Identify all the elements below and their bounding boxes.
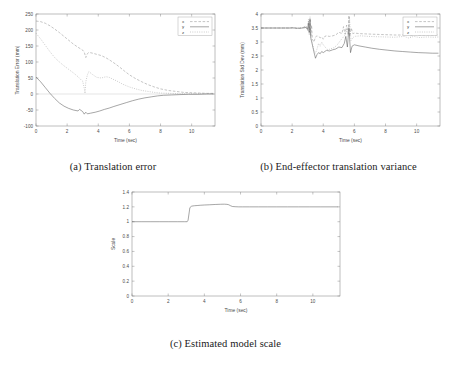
svg-text:0: 0 — [131, 299, 134, 304]
svg-text:1.2: 1.2 — [123, 205, 130, 210]
svg-text:2: 2 — [291, 129, 294, 134]
svg-text:1: 1 — [126, 219, 129, 224]
svg-text:1.5: 1.5 — [252, 82, 259, 87]
svg-text:0: 0 — [30, 92, 33, 97]
svg-text:4: 4 — [97, 129, 100, 134]
svg-text:Scale: Scale — [111, 238, 116, 251]
top-panel-row: 0246810-100-50050100150200250Time (sec)T… — [0, 0, 451, 178]
panel-translation-variance: 024681000.511.522.533.54Time (sec)Transl… — [226, 0, 451, 178]
panel-translation-error: 0246810-100-50050100150200250Time (sec)T… — [0, 0, 226, 178]
svg-text:2: 2 — [255, 68, 258, 73]
svg-text:Time (sec): Time (sec) — [114, 138, 137, 143]
svg-text:10: 10 — [310, 299, 316, 304]
svg-text:3: 3 — [255, 40, 258, 45]
svg-text:4: 4 — [322, 129, 325, 134]
plot-estimated-scale: 024681000.20.40.60.811.21.4Time (sec)Sca… — [0, 178, 451, 338]
panel-estimated-scale: 024681000.20.40.60.811.21.4Time (sec)Sca… — [0, 178, 451, 369]
svg-text:0.4: 0.4 — [123, 264, 130, 269]
svg-text:0: 0 — [126, 294, 129, 299]
svg-text:2: 2 — [66, 129, 69, 134]
svg-text:3.5: 3.5 — [252, 26, 259, 31]
svg-text:Time (sec): Time (sec) — [225, 308, 248, 313]
caption-panel-a: (a) Translation error — [0, 161, 226, 172]
svg-text:0.2: 0.2 — [123, 279, 130, 284]
svg-text:100: 100 — [25, 60, 33, 65]
svg-text:z: z — [407, 30, 409, 35]
svg-text:4: 4 — [255, 12, 258, 17]
svg-text:250: 250 — [25, 12, 33, 17]
svg-text:4: 4 — [203, 299, 206, 304]
svg-text:150: 150 — [25, 44, 33, 49]
svg-text:10: 10 — [189, 129, 195, 134]
svg-text:0.5: 0.5 — [252, 110, 259, 115]
svg-text:-100: -100 — [24, 124, 34, 129]
svg-text:6: 6 — [239, 299, 242, 304]
svg-text:Translation Error (mm): Translation Error (mm) — [15, 45, 20, 94]
plot-translation-error: 0246810-100-50050100150200250Time (sec)T… — [0, 0, 226, 158]
svg-text:1: 1 — [255, 96, 258, 101]
svg-text:6: 6 — [128, 129, 131, 134]
svg-text:1.4: 1.4 — [123, 190, 130, 195]
svg-text:0.8: 0.8 — [123, 234, 130, 239]
svg-text:0: 0 — [255, 124, 258, 129]
caption-panel-b: (b) End-effector translation variance — [226, 161, 451, 172]
svg-text:200: 200 — [25, 28, 33, 33]
svg-text:8: 8 — [384, 129, 387, 134]
caption-panel-c: (c) Estimated model scale — [0, 338, 451, 349]
svg-text:0: 0 — [260, 129, 263, 134]
svg-text:0: 0 — [35, 129, 38, 134]
plot-translation-variance: 024681000.511.522.533.54Time (sec)Transl… — [226, 0, 451, 158]
svg-text:50: 50 — [28, 76, 34, 81]
svg-text:2: 2 — [167, 299, 170, 304]
svg-text:Time (sec): Time (sec) — [339, 138, 362, 143]
svg-text:-50: -50 — [26, 108, 33, 113]
svg-text:8: 8 — [159, 129, 162, 134]
svg-text:6: 6 — [353, 129, 356, 134]
svg-text:8: 8 — [275, 299, 278, 304]
svg-text:Translation Std Dev (mm): Translation Std Dev (mm) — [240, 42, 245, 98]
svg-text:2.5: 2.5 — [252, 54, 259, 59]
figure-root: 0246810-100-50050100150200250Time (sec)T… — [0, 0, 451, 369]
svg-text:z: z — [182, 30, 184, 35]
svg-text:10: 10 — [414, 129, 420, 134]
svg-text:0.6: 0.6 — [123, 249, 130, 254]
